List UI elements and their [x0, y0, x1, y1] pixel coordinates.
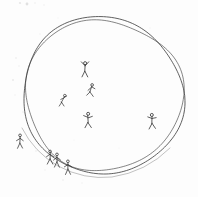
paper-speckle — [18, 65, 19, 66]
stick-figure-limb — [20, 143, 23, 148]
circle-stroke-pass-1 — [24, 17, 185, 174]
stick-figure-limb — [88, 116, 92, 118]
stick-figure — [81, 62, 88, 77]
stick-figure-head — [91, 84, 94, 87]
stick-figure-limb — [88, 122, 92, 127]
paper-speckle — [34, 2, 36, 4]
stick-figure-head — [67, 160, 70, 163]
stick-figure-limb — [152, 118, 156, 119]
stick-figure-limb — [85, 71, 88, 76]
stick-figure-limb — [59, 102, 61, 106]
hand-drawn-circle — [22, 17, 185, 178]
stick-figure-limb — [18, 143, 20, 148]
stick-figure-head — [19, 134, 22, 137]
paper-speckle — [22, 111, 24, 113]
paper-speckle — [26, 3, 29, 6]
stick-figure-limb — [148, 117, 152, 119]
circle-stroke-trailing-arc — [22, 128, 170, 178]
stick-figure-head — [56, 153, 59, 156]
paper-speckle — [149, 27, 150, 28]
stick-figure-limb — [85, 122, 88, 127]
paper-speckle — [57, 17, 58, 18]
stick-figure — [64, 160, 71, 175]
stick-figure-limb — [90, 92, 93, 97]
stick-figure-layer — [17, 62, 157, 175]
stick-figure — [87, 84, 95, 97]
paper-speckle — [12, 79, 14, 81]
stick-figure-limb — [54, 162, 56, 167]
stick-figure-limb — [152, 124, 155, 129]
stick-figure — [84, 112, 93, 127]
paper-speckle — [15, 57, 17, 59]
stick-figure-limb — [149, 123, 152, 129]
paper-speckle — [98, 175, 99, 176]
stick-figure-head — [87, 112, 90, 115]
paper-speckle — [35, 150, 37, 152]
stick-figure — [59, 94, 66, 106]
paper-speckle — [39, 33, 40, 34]
stick-figure-limb — [61, 102, 64, 106]
stick-figure-limb — [46, 154, 49, 156]
stick-figure-limb — [81, 62, 85, 66]
paper-speckle-layer — [12, 2, 185, 184]
stick-figure-limb — [87, 92, 90, 95]
paper-speckle — [140, 161, 141, 162]
circle-stroke-pass-2 — [26, 20, 185, 171]
stick-figure-limb — [92, 87, 95, 89]
paper-speckle — [73, 139, 74, 140]
stick-figure-limb — [82, 71, 85, 77]
stick-figure — [148, 113, 156, 129]
paper-speckle — [118, 147, 119, 148]
stick-figure — [17, 134, 24, 148]
paper-speckle — [43, 4, 44, 5]
paper-speckle — [62, 179, 64, 181]
paper-speckle — [44, 169, 45, 170]
paper-speckle — [19, 2, 21, 4]
paper-speckle — [81, 182, 82, 183]
sketch-canvas — [0, 0, 198, 197]
paper-speckle — [14, 94, 15, 95]
sketch-page — [0, 0, 198, 197]
